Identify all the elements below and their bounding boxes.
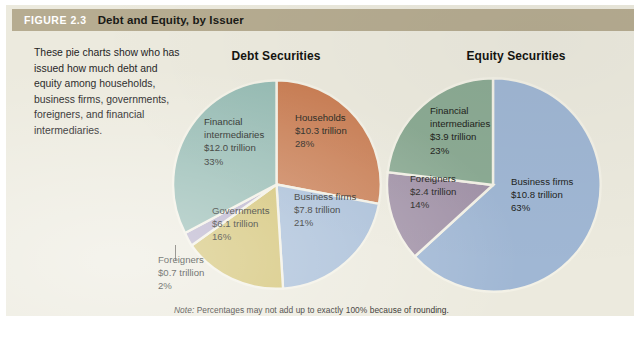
pie-label-equity-financial-intermediaries: Financial intermediaries $3.9 trillion 2… [430,104,490,157]
label-name-line2: intermediaries [430,117,490,130]
figure-number-label: FIGURE 2.3 [24,14,87,26]
note-text: Percentages may not add up to exactly 10… [194,305,449,315]
label-name-line1: Financial [204,115,264,128]
label-percent: 2% [158,279,204,292]
label-percent: 23% [430,144,490,157]
label-name: Business firms [294,190,356,203]
label-percent: 21% [294,216,356,229]
label-value: $3.9 trillion [430,130,490,143]
label-name-line1: Financial [430,104,490,117]
label-name: Business firms [511,175,573,188]
label-value: $7.8 trillion [294,203,356,216]
pie-label-debt-financial-intermediaries: Financial intermediaries $12.0 trillion … [204,115,264,168]
label-name-line2: intermediaries [204,128,264,141]
label-name: Governments [212,204,270,217]
label-value: $10.3 trillion [295,124,347,137]
figure-title-label: Debt and Equity, by Issuer [98,14,244,26]
label-percent: 28% [295,137,347,150]
label-value: $2.4 trillion [410,185,456,198]
pie-label-debt-households: Households $10.3 trillion 28% [295,111,347,151]
pie-label-debt-business-firms: Business firms $7.8 trillion 21% [294,190,356,230]
figure-panel: FIGURE 2.3 Debt and Equity, by Issuer Th… [6,5,634,316]
label-value: $6.1 trillion [212,217,270,230]
label-value: $0.7 trillion [158,266,204,279]
chart-title-debt-securities: Debt Securities [196,49,356,63]
note-lead-label: Note: [174,305,194,315]
label-name: Households [295,111,347,124]
label-percent: 63% [511,201,573,214]
label-value: $12.0 trillion [204,141,264,154]
label-name: Foreigners [410,172,456,185]
chart-title-equity-securities: Equity Securities [436,49,596,63]
figure-header-bar: FIGURE 2.3 Debt and Equity, by Issuer [12,9,634,31]
pie-label-debt-foreigners: Foreigners $0.7 trillion 2% [158,253,204,293]
figure-caption: These pie charts show who has issued how… [34,45,186,139]
label-percent: 14% [410,198,456,211]
pie-label-equity-foreigners: Foreigners $2.4 trillion 14% [410,172,456,212]
label-percent: 33% [204,155,264,168]
label-percent: 16% [212,230,270,243]
pie-label-debt-governments: Governments $6.1 trillion 16% [212,204,270,244]
label-value: $10.8 trillion [511,188,573,201]
figure-note: Note: Percentages may not add up to exac… [174,305,449,315]
label-name: Foreigners [158,253,204,266]
pie-label-equity-business-firms: Business firms $10.8 trillion 63% [511,175,573,215]
